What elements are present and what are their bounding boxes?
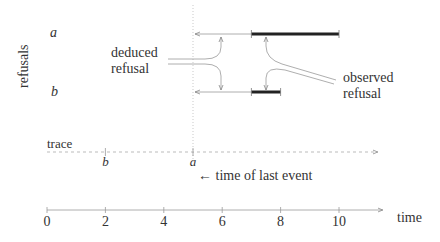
trace-event-label: b (102, 154, 109, 169)
time-axis-tick-label: 6 (219, 214, 226, 229)
trace-label: trace (47, 136, 72, 151)
deduced-connector-to-a (168, 37, 221, 59)
last-event-label: ← time of last event (198, 168, 312, 183)
time-axis-tick-label: 4 (160, 214, 167, 229)
observed-connector-to-b (266, 69, 334, 90)
refusal-diagram: refusals a b deduced refusal observed re… (0, 0, 440, 242)
time-axis-label: time (397, 210, 422, 225)
observed-connector-to-a (266, 37, 336, 80)
time-axis-tick-label: 8 (277, 214, 284, 229)
deduced-refusal-label-line2: refusal (111, 61, 149, 76)
time-axis-tick-label: 0 (44, 214, 51, 229)
time-axis-tick-label: 10 (332, 214, 346, 229)
observed-refusal-label-line1: observed (343, 70, 394, 85)
trace-event-label: a (190, 154, 197, 169)
y-axis-label: refusals (16, 44, 31, 88)
observed-refusal-label-line2: refusal (343, 86, 381, 101)
row-label-a: a (50, 25, 57, 40)
deduced-refusal-label-line1: deduced (111, 45, 158, 60)
time-axis-tick-label: 2 (102, 214, 109, 229)
deduced-connector-to-b (168, 64, 221, 90)
row-label-b: b (51, 84, 58, 99)
